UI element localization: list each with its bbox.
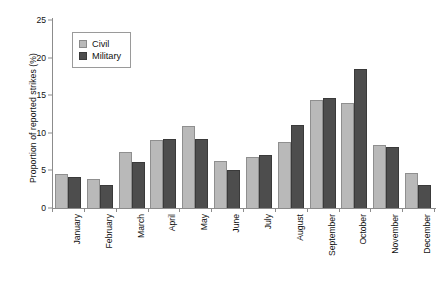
bar-civil <box>150 140 163 208</box>
legend-swatch-military-icon <box>79 52 87 60</box>
bar-military <box>354 69 367 208</box>
x-tick-label: November <box>390 214 400 254</box>
bar-military <box>195 139 208 208</box>
bar-civil <box>214 161 227 208</box>
bar-civil <box>182 126 195 208</box>
x-tick-mark <box>307 208 308 212</box>
bar-military <box>100 185 113 208</box>
bar-group <box>179 20 211 208</box>
x-tick-mark <box>148 208 149 212</box>
x-tick-mark <box>370 208 371 212</box>
bar-military <box>132 162 145 208</box>
legend-swatch-civil-icon <box>79 40 87 48</box>
x-tick-mark <box>84 208 85 212</box>
bar-military <box>323 98 336 208</box>
bar-civil <box>246 157 259 208</box>
x-tick-label: February <box>104 214 114 248</box>
x-tick-label: August <box>295 214 305 241</box>
x-tick-mark <box>402 208 403 212</box>
x-tick-mark <box>339 208 340 212</box>
bar-military <box>291 125 304 208</box>
bar-military <box>227 170 240 208</box>
legend-item-civil: Civil <box>79 39 121 49</box>
x-tick-label: December <box>422 214 432 254</box>
x-tick-mark <box>434 208 435 212</box>
bar-civil <box>405 173 418 208</box>
bar-military <box>418 185 431 208</box>
x-tick-label: May <box>199 214 209 230</box>
bar-civil <box>310 100 323 208</box>
bar-group <box>211 20 243 208</box>
x-tick-mark <box>211 208 212 212</box>
x-tick-mark <box>116 208 117 212</box>
bar-chart: Proportion of reported strikes (%) 05101… <box>0 0 445 290</box>
x-tick-label: April <box>167 214 177 231</box>
bar-civil <box>278 142 291 208</box>
x-tick-label: October <box>358 214 368 245</box>
x-tick-label: June <box>231 214 241 233</box>
x-tick-label: July <box>263 214 273 229</box>
bar-group <box>370 20 402 208</box>
x-tick-mark <box>243 208 244 212</box>
y-axis-title: Proportion of reported strikes (%) <box>28 23 38 213</box>
x-axis-line <box>52 208 436 209</box>
x-tick-mark <box>275 208 276 212</box>
bar-group <box>275 20 307 208</box>
bar-group <box>148 20 180 208</box>
legend-item-military: Military <box>79 51 121 61</box>
bar-military <box>259 155 272 208</box>
bar-civil <box>55 174 68 208</box>
bar-military <box>68 177 81 208</box>
x-tick-label: September <box>327 214 337 256</box>
bar-civil <box>119 152 132 208</box>
bar-group <box>402 20 434 208</box>
bar-group <box>243 20 275 208</box>
legend-label-military: Military <box>92 51 121 61</box>
bar-group <box>339 20 371 208</box>
bar-civil <box>341 103 354 208</box>
legend-label-civil: Civil <box>92 39 109 49</box>
x-tick-mark <box>52 208 53 212</box>
legend: Civil Military <box>72 32 131 68</box>
bar-group <box>307 20 339 208</box>
x-tick-mark <box>179 208 180 212</box>
bar-military <box>163 139 176 208</box>
x-tick-label: January <box>72 214 82 245</box>
bar-civil <box>87 179 100 208</box>
bar-civil <box>373 145 386 208</box>
x-tick-label: March <box>136 214 146 238</box>
bar-military <box>386 147 399 208</box>
